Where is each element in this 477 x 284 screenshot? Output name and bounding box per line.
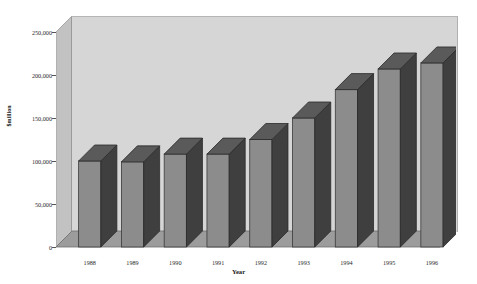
bar-1995 (378, 53, 416, 247)
bar-1993 (293, 102, 331, 247)
y-axis-tick-group: 250,000200,000150,000100,00050,0000 (0, 0, 56, 284)
bar-front-face (164, 154, 186, 247)
bar-1991 (207, 138, 245, 247)
bar-1990 (164, 138, 202, 247)
bar-1988 (79, 145, 117, 247)
x-axis-tick-label: 1992 (241, 259, 281, 266)
bars-layer (56, 16, 456, 262)
bar-side-face (443, 47, 456, 247)
bar-side-face (400, 53, 416, 247)
bar-side-face (101, 145, 117, 247)
x-axis-tick-label: 1990 (155, 259, 195, 266)
x-axis-title: Year (0, 268, 477, 275)
bar-side-face (315, 102, 331, 247)
x-axis-tick-label: 1991 (198, 259, 238, 266)
bar-front-face (250, 140, 272, 248)
bar-chart: $million 250,000200,000150,000100,00050,… (0, 0, 477, 284)
bar-front-face (293, 118, 315, 247)
x-axis-tick-label: 1994 (326, 259, 366, 266)
bar-front-face (378, 69, 400, 247)
x-axis-tick-label: 1989 (113, 259, 153, 266)
bar-side-face (229, 138, 245, 247)
x-axis-tick-label: 1996 (412, 259, 452, 266)
bar-side-face (186, 138, 202, 247)
bar-front-face (121, 162, 143, 247)
bar-1994 (335, 74, 373, 247)
bar-side-face (272, 124, 288, 248)
bar-side-face (144, 146, 160, 247)
bar-front-face (79, 161, 101, 247)
bar-1996 (421, 47, 456, 247)
plot-area (56, 16, 456, 251)
bar-front-face (421, 63, 443, 247)
bar-front-face (207, 154, 229, 247)
x-axis-tick-label: 1995 (369, 259, 409, 266)
x-axis-tick-label: 1993 (284, 259, 324, 266)
bar-front-face (335, 90, 357, 247)
bar-1992 (250, 124, 288, 248)
x-axis-tick-label: 1988 (70, 259, 110, 266)
bar-1989 (121, 146, 159, 247)
bar-side-face (358, 74, 374, 247)
